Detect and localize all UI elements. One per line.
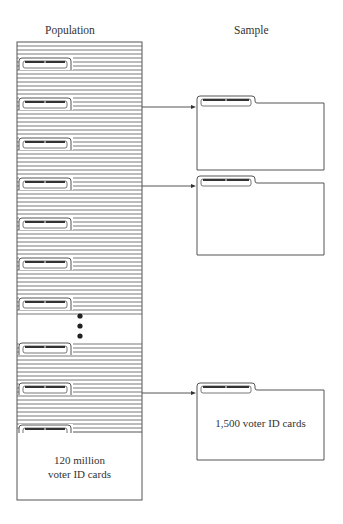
- sample-caption: 1,500 voter ID cards: [197, 416, 324, 430]
- ellipsis-dot: [77, 313, 82, 318]
- ellipsis-dot: [77, 333, 82, 338]
- population-caption-line2: voter ID cards: [17, 467, 142, 481]
- sample-title: Sample: [234, 24, 269, 36]
- sampling-diagram: [0, 0, 343, 524]
- sample-card-1: [197, 96, 324, 170]
- arrow-head-icon: [191, 184, 196, 188]
- ellipsis-dot: [77, 323, 82, 328]
- sample-card-2: [197, 176, 324, 255]
- population-title: Population: [45, 24, 95, 36]
- population-caption-line1: 120 million: [17, 453, 142, 467]
- arrow-head-icon: [191, 105, 196, 109]
- population-caption: 120 million voter ID cards: [17, 453, 142, 481]
- arrow-head-icon: [191, 391, 196, 395]
